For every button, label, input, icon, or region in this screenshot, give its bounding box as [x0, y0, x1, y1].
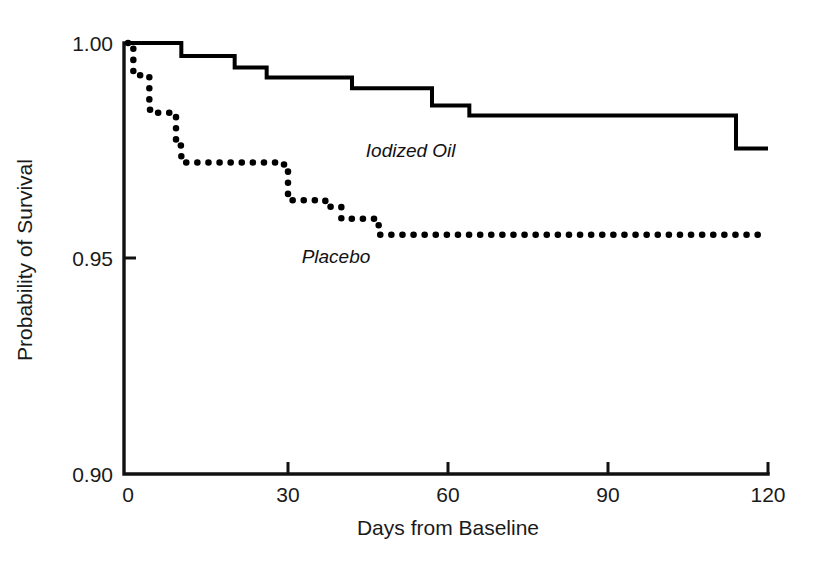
x-tick-label-120: 120	[750, 483, 785, 506]
x-tick-label-0: 0	[122, 483, 134, 506]
series-annotation-iodized-oil: Iodized Oil	[366, 140, 457, 161]
series-annotation-placebo: Placebo	[302, 246, 371, 267]
survival-chart-figure: 0 30 60 90 120 1.00 0.95 0.90 Days from …	[0, 0, 818, 572]
x-tick-label-30: 30	[276, 483, 299, 506]
y-tick-label-1-00: 1.00	[72, 32, 113, 55]
y-tick-label-0-95: 0.95	[72, 247, 113, 270]
y-axis-title: Probability of Survival	[13, 159, 36, 361]
x-tick-label-90: 90	[596, 483, 619, 506]
chart-svg: 0 30 60 90 120 1.00 0.95 0.90 Days from …	[0, 0, 818, 572]
x-tick-label-60: 60	[436, 483, 459, 506]
x-axis-title: Days from Baseline	[357, 516, 539, 539]
y-tick-label-0-90: 0.90	[72, 463, 113, 486]
